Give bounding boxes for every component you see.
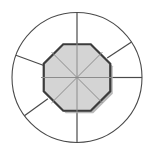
inner-spokes-group xyxy=(41,42,113,114)
geometric-diagram xyxy=(0,0,155,156)
figure-container xyxy=(0,0,155,156)
